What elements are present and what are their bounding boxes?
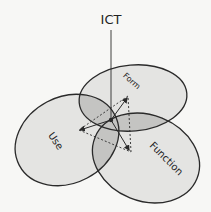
center-point bbox=[109, 118, 113, 122]
ict-venn-diagram: ICT Form Use Function bbox=[0, 0, 211, 212]
ict-label: ICT bbox=[101, 12, 122, 27]
